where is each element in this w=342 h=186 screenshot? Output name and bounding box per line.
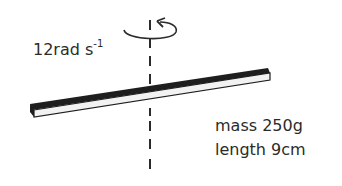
mass-label: mass 250g — [215, 117, 303, 135]
angular-velocity-value: 12rad s — [33, 40, 93, 59]
angular-velocity-label: 12rad s-1 — [33, 37, 103, 59]
angular-velocity-exponent: -1 — [93, 38, 103, 49]
length-label: length 9cm — [215, 141, 306, 159]
